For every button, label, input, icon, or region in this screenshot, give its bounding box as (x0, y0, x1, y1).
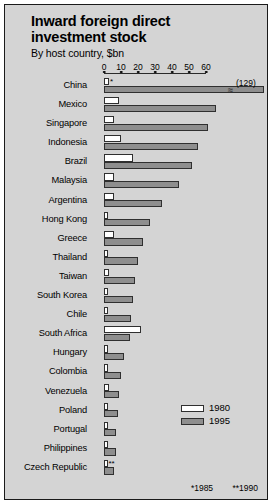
bar-1980 (104, 116, 114, 123)
bar-1980 (104, 460, 108, 467)
bar-row: Malaysia (5, 172, 267, 191)
bar-1995 (104, 124, 208, 131)
bar-row: Philippines (5, 440, 267, 459)
value-label: (129) (236, 78, 256, 88)
bar-1995 (104, 277, 135, 284)
bar-1980 (104, 326, 141, 333)
category-label: South Africa (0, 328, 87, 338)
legend-label-1980: 1980 (209, 402, 230, 413)
bar-1995 (104, 448, 116, 455)
footnote-marker: ** (109, 459, 115, 468)
chart-panel: Inward foreign direct investment stock B… (4, 4, 268, 500)
bar-1995 (104, 467, 114, 474)
chart-title: Inward foreign direct investment stock (31, 14, 246, 45)
x-axis-labels: 0102030405060 (100, 62, 220, 76)
bar-1995 (104, 238, 143, 245)
bar-1980 (104, 384, 109, 391)
x-tick-0 (103, 71, 106, 74)
bar-row: South Africa (5, 325, 267, 344)
bar-row: China≈(129)* (5, 77, 267, 96)
bar-1995 (104, 410, 118, 417)
category-label: Chile (0, 309, 87, 319)
bar-row: Greece (5, 230, 267, 249)
footnote-1: *1985 (191, 483, 213, 493)
bar-1995 (104, 391, 119, 398)
bar-1980 (104, 307, 108, 314)
bar-1995 (104, 296, 133, 303)
footnote-marker: * (110, 77, 113, 86)
x-tick-60 (205, 71, 208, 74)
category-label: Malaysia (0, 175, 87, 185)
category-label: Hungary (0, 347, 87, 357)
bar-1995 (104, 162, 192, 169)
bar-1995 (104, 143, 198, 150)
category-label: South Korea (0, 290, 87, 300)
x-tick-30 (154, 71, 157, 74)
bar-row: Argentina (5, 192, 267, 211)
chart-footnotes: *1985 **1990 (174, 483, 258, 493)
bar-row: Colombia (5, 363, 267, 382)
bar-1980 (104, 231, 114, 238)
bar-1995 (104, 181, 179, 188)
category-label: Portugal (0, 424, 87, 434)
bar-row: Indonesia (5, 134, 267, 153)
bar-1980 (104, 422, 108, 429)
category-label: Czech Republic (0, 462, 87, 472)
bar-row: Hungary (5, 344, 267, 363)
bar-row: Brazil (5, 153, 267, 172)
category-label: Philippines (0, 443, 87, 453)
category-label: Colombia (0, 366, 87, 376)
bar-1980 (104, 288, 108, 295)
bar-1995 (104, 200, 162, 207)
bar-row: Czech Republic** (5, 459, 267, 478)
bar-1980 (104, 154, 133, 161)
bar-1995 (104, 372, 121, 379)
bar-1980 (104, 173, 114, 180)
bar-row: Hong Kong (5, 211, 267, 230)
bar-row: Mexico (5, 96, 267, 115)
bar-1995 (104, 429, 116, 436)
category-label: Thailand (0, 252, 87, 262)
bar-1995 (104, 105, 216, 112)
legend-swatch-1995 (181, 418, 204, 426)
bar-1980 (104, 403, 108, 410)
axis-break-icon: ≈ (228, 85, 232, 95)
bar-row: Singapore (5, 115, 267, 134)
bar-1980 (104, 364, 108, 371)
category-label: Indonesia (0, 137, 87, 147)
category-label: Venezuela (0, 386, 87, 396)
category-label: Brazil (0, 156, 87, 166)
bar-row: Thailand (5, 249, 267, 268)
footnote-2: **1990 (232, 483, 258, 493)
bar-1980 (104, 250, 108, 257)
bar-1980 (104, 97, 119, 104)
category-label: Hong Kong (0, 214, 87, 224)
category-label: Poland (0, 405, 87, 415)
bar-1980 (104, 135, 121, 142)
bar-1980 (104, 193, 114, 200)
bar-row: Taiwan (5, 268, 267, 287)
bar-1980 (104, 269, 109, 276)
x-tick-10 (120, 71, 123, 74)
bar-1980 (104, 78, 109, 85)
bar-1980 (104, 212, 108, 219)
category-label: Greece (0, 233, 87, 243)
bar-1995 (104, 334, 130, 341)
chart-subtitle: By host country, $bn (31, 47, 124, 59)
bar-1995 (104, 219, 150, 226)
category-label: Singapore (0, 118, 87, 128)
x-tick-50 (188, 71, 191, 74)
category-label: China (0, 80, 87, 90)
category-label: Mexico (0, 99, 87, 109)
bar-1995 (104, 353, 124, 360)
bar-row: Venezuela (5, 383, 267, 402)
bar-1980 (104, 345, 108, 352)
category-label: Argentina (0, 195, 87, 205)
legend-label-1995: 1995 (209, 415, 230, 426)
x-tick-20 (137, 71, 140, 74)
bar-1995 (104, 315, 131, 322)
bar-row: Chile (5, 306, 267, 325)
x-tick-40 (171, 71, 174, 74)
bar-row: South Korea (5, 287, 267, 306)
legend-swatch-1980 (181, 405, 204, 413)
